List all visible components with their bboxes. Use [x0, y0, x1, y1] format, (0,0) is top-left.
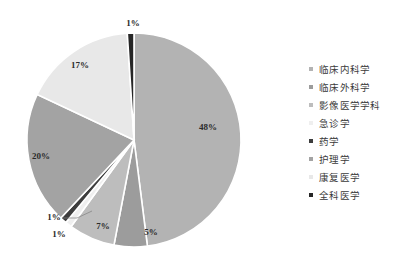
legend-item-3[interactable]: 急诊学	[309, 114, 405, 132]
legend-label-2: 影像医学学科	[319, 98, 381, 112]
slice-label-4: 1%	[52, 229, 66, 239]
legend-swatch-icon-6	[309, 175, 313, 179]
legend-swatch-icon-2	[309, 103, 313, 107]
legend-label-6: 康复医学	[319, 170, 360, 184]
slice-label-3: 1%	[47, 212, 61, 222]
legend-item-7[interactable]: 全科医学	[309, 186, 405, 204]
slice-label-7: 1%	[126, 18, 140, 28]
legend-swatch-icon-3	[309, 121, 313, 125]
legend-label-5: 护理学	[319, 152, 350, 166]
legend-label-4: 药学	[319, 134, 340, 148]
legend-swatch-icon-4	[309, 139, 313, 143]
legend-label-7: 全科医学	[319, 188, 360, 202]
legend-swatch-icon-7	[309, 193, 313, 197]
legend-swatch-icon-5	[309, 157, 313, 161]
legend-item-5[interactable]: 护理学	[309, 150, 405, 168]
slice-label-6: 17%	[71, 60, 89, 70]
legend-item-2[interactable]: 影像医学学科	[309, 96, 405, 114]
pie-slice-0[interactable]	[134, 33, 241, 246]
slice-label-0: 48%	[199, 122, 217, 132]
slice-label-2: 7%	[96, 221, 110, 231]
legend-item-6[interactable]: 康复医学	[309, 168, 405, 186]
legend-item-1[interactable]: 临床外科学	[309, 78, 405, 96]
legend-label-0: 临床内科学	[319, 62, 371, 76]
legend-item-4[interactable]: 药学	[309, 132, 405, 150]
legend-swatch-icon-1	[309, 85, 313, 89]
chart-legend: 临床内科学 临床外科学 影像医学学科 急诊学 药学 护理学 康复医学 全科医学	[309, 60, 405, 204]
legend-label-1: 临床外科学	[319, 80, 371, 94]
slice-label-5: 20%	[32, 151, 50, 161]
legend-item-0[interactable]: 临床内科学	[309, 60, 405, 78]
slice-label-1: 5%	[144, 227, 158, 237]
legend-swatch-icon-0	[309, 67, 313, 71]
pie-chart: 48% 5% 7% 1% 1% 20% 17% 1% 临床内科学 临床外科学 影…	[0, 0, 407, 263]
legend-label-3: 急诊学	[319, 116, 350, 130]
